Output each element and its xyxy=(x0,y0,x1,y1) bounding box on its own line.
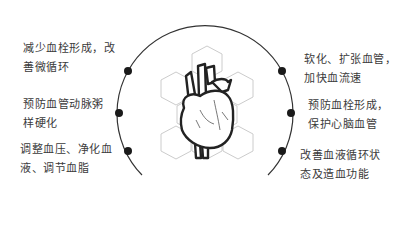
right-item-3: 改善血液循环状 态及造血功能 xyxy=(300,146,381,184)
left-item-1: 减少血栓形成，改 善微循环 xyxy=(23,39,115,77)
dot-right-2 xyxy=(287,109,295,117)
left-item-2: 预防血管动脉粥 样硬化 xyxy=(23,95,104,133)
dot-right-3 xyxy=(278,147,286,155)
dot-left-2 xyxy=(115,109,123,117)
dot-left-1 xyxy=(124,67,132,75)
heart-icon xyxy=(181,64,233,158)
dot-left-3 xyxy=(124,147,132,155)
right-item-1: 软化、扩张血管， 加快血流速 xyxy=(304,50,396,88)
left-item-3: 调整血压、净化血 液、调节血脂 xyxy=(20,140,112,178)
right-item-2: 预防血栓形成， 保护心脑血管 xyxy=(308,96,389,134)
dot-right-1 xyxy=(278,67,286,75)
